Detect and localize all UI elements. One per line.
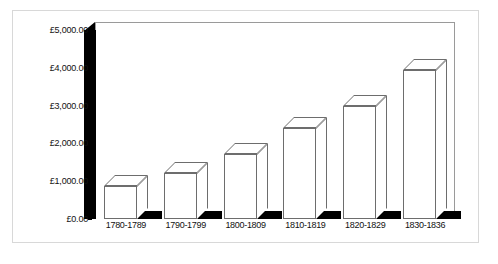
bar-column — [104, 175, 148, 219]
chart-screenshot: £0.00£1,000.00£2,000.00£3,000.00£4,000.0… — [0, 0, 498, 264]
x-axis-tick-label: 1810-1819 — [272, 220, 340, 230]
bar-column — [224, 143, 268, 219]
bar-column — [403, 59, 447, 219]
bar-front-face — [164, 173, 197, 219]
y-axis-labels: £0.00£1,000.00£2,000.00£3,000.00£4,000.0… — [14, 22, 92, 218]
bar-column — [343, 95, 387, 219]
bar-side-face — [257, 143, 268, 219]
y-axis-tick-mark — [88, 68, 92, 69]
x-axis-tick-label: 1800-1809 — [212, 220, 280, 230]
x-axis-labels: 1780-17891790-17991800-18091810-18191820… — [84, 220, 479, 236]
bar-front-face — [343, 106, 376, 219]
bar-front-face — [104, 186, 137, 219]
y-axis-tick-mark — [88, 181, 92, 182]
y-axis-tick-mark — [88, 143, 92, 144]
bar-series — [96, 22, 455, 219]
x-axis-tick-label: 1780-1789 — [92, 220, 160, 230]
y-axis-tick-mark — [88, 30, 92, 31]
bar-column — [283, 117, 327, 219]
bar-front-face — [224, 154, 257, 219]
y-axis-tick-label: £4,000.00 — [50, 63, 88, 73]
y-axis-tick-label: £2,000.00 — [50, 138, 88, 148]
bar-side-face — [376, 95, 387, 219]
bar-side-face — [316, 117, 327, 219]
bar-front-face — [283, 128, 316, 219]
y-axis-tick-label: £3,000.00 — [50, 101, 88, 111]
bar-front-face — [403, 70, 436, 219]
y-axis-tick-label: £5,000.00 — [50, 25, 88, 35]
x-axis-tick-label: 1790-1799 — [152, 220, 220, 230]
y-axis-tick-label: £1,000.00 — [50, 176, 88, 186]
x-axis-tick-label: 1820-1829 — [331, 220, 399, 230]
x-axis-tick-label: 1830-1836 — [391, 220, 459, 230]
bar-side-face — [436, 59, 447, 219]
y-axis-tick-mark — [88, 106, 92, 107]
bar-column — [164, 162, 208, 219]
